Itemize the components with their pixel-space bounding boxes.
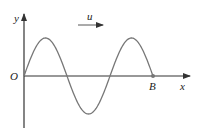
point-b-dot <box>151 74 155 78</box>
y-axis-label: y <box>13 12 19 24</box>
point-b-label: B <box>149 80 156 92</box>
wave-diagram: y x O B u <box>0 0 201 137</box>
x-axis-label: x <box>179 80 185 92</box>
origin-label: O <box>10 70 18 82</box>
velocity-label: u <box>87 10 93 22</box>
